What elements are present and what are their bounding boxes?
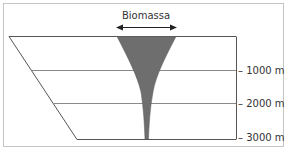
- slope-line: [9, 37, 77, 140]
- depth-label-2000: – 2000 m: [238, 98, 285, 109]
- ocean-biomass-diagram: Biomassa – 1000 m – 2000 m – 3000 m: [0, 0, 287, 150]
- arrow-right-head-icon: [170, 25, 177, 31]
- biomass-shape: [117, 37, 176, 140]
- ocean-basin: [9, 37, 237, 140]
- biomass-width-arrow: [116, 25, 177, 31]
- depth-lines: [32, 71, 237, 104]
- depth-label-3000: – 3000 m: [238, 132, 285, 143]
- arrow-left-head-icon: [116, 25, 123, 31]
- biomass-label: Biomassa: [122, 10, 170, 21]
- depth-label-1000: – 1000 m: [238, 65, 285, 76]
